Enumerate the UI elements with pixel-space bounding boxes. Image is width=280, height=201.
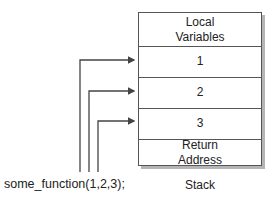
arrow-arg-3 [98, 121, 134, 172]
stack-cell-arg-3: 3 [139, 108, 261, 140]
stack-frame: Local Variables 1 2 3 Return Address [138, 12, 262, 166]
stack-cell-local-variables: Local Variables [139, 13, 261, 47]
arrow-arg-1 [80, 60, 134, 172]
arrow-arg-2 [89, 91, 134, 172]
stack-caption: Stack [138, 178, 262, 192]
stack-cell-arg-2: 2 [139, 77, 261, 109]
function-call-text: some_function(1,2,3); [4, 177, 125, 191]
stack-cell-return-address: Return Address [139, 139, 261, 166]
stack-cell-arg-1: 1 [139, 46, 261, 78]
